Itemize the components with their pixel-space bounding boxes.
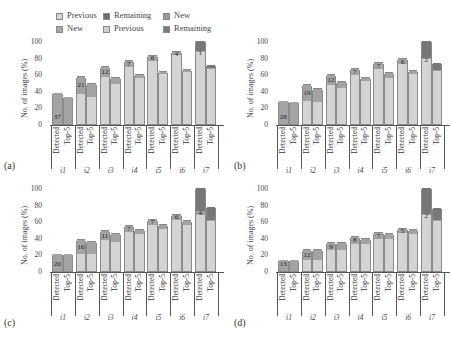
detected-bar: 8 — [350, 238, 361, 272]
x-category-label: i2 — [77, 313, 97, 322]
new-count-label: 28 — [279, 113, 288, 121]
bar-segment-previous — [135, 78, 144, 124]
top5-bar — [408, 231, 419, 272]
x-label-top5: Top-5 — [409, 127, 417, 145]
new-count-label: 21 — [77, 81, 86, 89]
x-category-label: i3 — [327, 313, 347, 322]
detected-bar: 21 — [76, 78, 87, 125]
top5-bar — [289, 103, 300, 125]
x-label-detected: Detected — [422, 127, 430, 154]
x-label-detected: Detected — [148, 274, 156, 301]
x-category-label: i3 — [101, 313, 121, 322]
bar-segment-previous — [101, 77, 110, 124]
x-category-label: i1 — [279, 313, 299, 322]
bar-segment-previous — [125, 67, 134, 124]
new-count-label: 19 — [303, 89, 312, 97]
top5-bar — [110, 235, 121, 272]
chart-panel-b: No. of images (%)02040608010028DetectedT… — [226, 0, 452, 172]
new-count-label: 6 — [148, 54, 157, 62]
x-label-top5: Top-5 — [159, 274, 167, 292]
new-count-label: 4 — [172, 50, 181, 58]
x-label-top5: Top-5 — [290, 274, 298, 292]
y-tick-label: 40 — [250, 234, 268, 243]
new-count-label: 2 — [422, 56, 431, 64]
x-label-top5: Top-5 — [313, 127, 321, 145]
x-label-top5: Top-5 — [409, 274, 417, 292]
y-tick-label: 0 — [250, 120, 268, 129]
bar-segment-new — [385, 72, 394, 77]
new-count-label: 5 — [398, 227, 407, 235]
y-tick-label: 80 — [24, 201, 42, 210]
bar-segment-previous — [313, 260, 322, 271]
x-label-top5: Top-5 — [111, 127, 119, 145]
top5-bar — [384, 235, 395, 272]
bar-segment-new — [337, 242, 346, 250]
detected-bar: 20 — [52, 255, 63, 272]
new-count-label: 1 — [196, 49, 205, 57]
x-label-detected: Detected — [125, 274, 133, 301]
new-count-label: 7 — [351, 68, 360, 76]
x-label-detected: Detected — [422, 274, 430, 301]
chart-panel-a: No. of images (%)02040608010037DetectedT… — [0, 0, 226, 172]
chart-panel-c: No. of images (%)02040608010020DetectedT… — [0, 172, 226, 344]
bar-segment-new — [135, 229, 144, 234]
detected-bar: 13 — [278, 261, 289, 272]
bar-segment-previous — [159, 74, 168, 124]
x-label-top5: Top-5 — [111, 274, 119, 292]
x-label-top5: Top-5 — [337, 274, 345, 292]
x-label-top5: Top-5 — [207, 274, 215, 292]
panel-label: (c) — [4, 317, 15, 328]
top5-bar — [312, 90, 323, 125]
top5-bar — [336, 83, 347, 125]
category-divider — [444, 125, 445, 169]
x-category-label: i5 — [148, 313, 168, 322]
y-tick-label: 0 — [24, 267, 42, 276]
new-count-label: 8 — [351, 236, 360, 244]
bar-segment-previous — [337, 88, 346, 124]
new-count-label: 16 — [77, 243, 86, 251]
bar-segment-new — [111, 233, 120, 241]
new-count-label: 9 — [327, 243, 336, 251]
y-tick-label: 0 — [250, 267, 268, 276]
bar-segment-previous — [159, 229, 168, 271]
detected-bar: 7 — [373, 234, 384, 272]
bar-segment-new — [409, 70, 418, 74]
y-tick-label: 100 — [250, 37, 268, 46]
x-label-top5: Top-5 — [87, 274, 95, 292]
bar-segment-new — [409, 229, 418, 234]
x-label-detected: Detected — [303, 127, 311, 154]
y-tick-label: 40 — [24, 234, 42, 243]
new-count-label: 12 — [327, 76, 336, 84]
new-count-label: 13 — [279, 260, 288, 268]
bar-segment-previous — [135, 234, 144, 271]
category-divider — [444, 272, 445, 316]
detected-bar: 4 — [195, 189, 206, 272]
bar-segment-new — [159, 224, 168, 230]
new-count-label: 7 — [125, 225, 134, 233]
bar-segment-previous — [183, 225, 192, 271]
top5-bar — [336, 244, 347, 272]
bar-segment-new — [290, 260, 299, 271]
x-label-detected: Detected — [351, 274, 359, 301]
y-tick-label: 100 — [24, 37, 42, 46]
x-category-label: i7 — [422, 313, 442, 322]
bar-segment-previous — [409, 74, 418, 124]
category-divider — [218, 125, 219, 169]
new-count-label: 7 — [374, 232, 383, 240]
detected-bar: 9 — [326, 244, 337, 272]
x-label-top5: Top-5 — [385, 127, 393, 145]
panel-label: (d) — [234, 317, 246, 328]
detected-bar: 7 — [124, 62, 135, 125]
bar-segment-previous — [207, 69, 216, 124]
panel-label: (b) — [234, 160, 246, 171]
chart-panel-d: No. of images (%)02040608010013DetectedT… — [226, 172, 452, 344]
x-label-detected: Detected — [374, 274, 382, 301]
y-tick-label: 80 — [24, 54, 42, 63]
y-tick-label: 0 — [24, 120, 42, 129]
y-tick-label: 20 — [250, 250, 268, 259]
bar-segment-previous — [111, 84, 120, 124]
bar-segment-previous — [207, 221, 216, 271]
top5-bar — [206, 66, 217, 125]
new-count-label: 12 — [101, 68, 110, 76]
detected-bar: 12 — [302, 251, 313, 272]
